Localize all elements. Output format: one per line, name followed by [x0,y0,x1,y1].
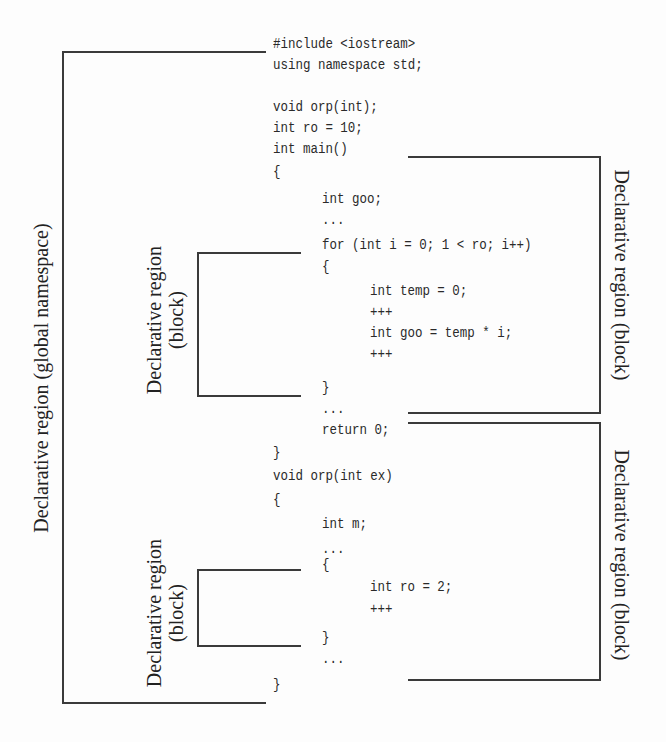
orp-block-bracket-bottom [408,679,601,681]
code-line: #include <iostream> [273,36,415,52]
inner-block-label-line1: Declarative region [143,539,165,687]
code-line: } [273,445,280,461]
main-block-bracket-side [599,156,601,414]
code-line: using namespace std; [273,57,423,73]
code-line: void orp(int ex) [273,468,393,484]
code-line: ... [322,212,344,228]
code-line: int ro = 10; [273,120,363,136]
inner-block-bracket-side [197,569,199,647]
global-namespace-label: Declarative region (global namespace) [30,223,52,532]
global-bracket-top [63,51,266,53]
code-line: int goo; [322,191,382,207]
code-line: { [273,492,280,508]
code-line: int main() [273,141,348,157]
code-line: +++ [370,346,392,362]
for-block-label: Declarative region (block) [143,246,187,394]
code-line: ... [322,541,344,557]
for-block-bracket-bottom [198,395,301,397]
inner-block-bracket-bottom [198,645,301,647]
code-line: ... [322,401,344,417]
code-line: } [273,677,280,693]
code-line: for (int i = 0; 1 < ro; i++) [322,237,532,253]
code-line: int m; [322,516,367,532]
code-line: { [322,259,329,275]
global-bracket-bottom [63,702,266,704]
code-line: ... [322,651,344,667]
global-bracket-side [62,51,64,704]
inner-block-label: Declarative region (block) [143,539,187,687]
main-block-bracket-top [408,156,601,158]
code-line: void orp(int); [273,99,378,115]
code-line: } [322,380,329,396]
orp-block-bracket-side [599,422,601,681]
code-line: int temp = 0; [370,283,467,299]
for-block-bracket-top [198,252,301,254]
main-block-bracket-bottom [408,412,601,414]
for-block-label-line1: Declarative region [143,246,165,394]
main-block-label: Declarative region (block) [611,169,633,380]
code-line: } [322,630,329,646]
for-block-label-line2: (block) [165,246,187,394]
code-line: return 0; [322,422,389,438]
declarative-regions-diagram: #include <iostream>using namespace std;v… [0,0,666,742]
code-line: { [322,557,329,573]
code-line: +++ [370,601,392,617]
inner-block-bracket-top [198,569,301,571]
code-line: +++ [370,304,392,320]
code-line: int ro = 2; [370,579,452,595]
code-line: { [273,164,280,180]
orp-block-bracket-top [408,422,601,424]
orp-block-label: Declarative region (block) [611,449,633,660]
for-block-bracket-side [197,252,199,397]
inner-block-label-line2: (block) [165,539,187,687]
code-line: int goo = temp * i; [370,325,512,341]
